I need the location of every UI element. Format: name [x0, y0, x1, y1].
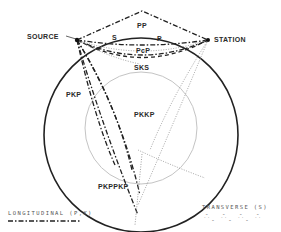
- svg-text:ˇ: ˇ: [246, 219, 248, 225]
- svg-text:.ˆ.: .ˆ.: [255, 213, 261, 219]
- svg-text:.ˆ.: .ˆ.: [221, 213, 227, 219]
- svg-text:.ˆ.: .ˆ.: [238, 213, 244, 219]
- station-marker: [206, 38, 210, 42]
- pcp-label: PcP: [136, 47, 150, 54]
- station-label: STATION: [214, 36, 246, 43]
- svg-text:.ˆ.: .ˆ.: [204, 213, 210, 219]
- source-marker: [75, 38, 79, 42]
- legend-transverse-sample: .ˆ. .ˆ. .ˆ. .ˆ. ˇ ˇ ˇ: [204, 213, 261, 225]
- svg-text:ˇ: ˇ: [229, 219, 231, 225]
- svg-text:ˇ: ˇ: [212, 219, 214, 225]
- p-label: P: [157, 35, 162, 42]
- legend-longitudinal-label: LONGITUDINAL (P,K): [8, 211, 93, 217]
- pkppkp-label: PKPPKP: [98, 183, 129, 190]
- pkp-label: PKP: [66, 91, 81, 98]
- source-label: SOURCE: [27, 33, 59, 40]
- pp-label: PP: [137, 22, 147, 29]
- legend-transverse-label: TRANSVERSE (S): [202, 205, 268, 211]
- s-label: S: [112, 34, 117, 41]
- sks-label: SKS: [134, 64, 149, 71]
- pkkp-label: PKKP: [134, 111, 155, 118]
